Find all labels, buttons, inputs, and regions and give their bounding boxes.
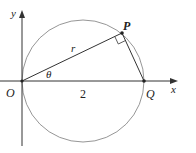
y-axis-arrow-icon [19,10,25,18]
y-axis-label: y [10,7,16,19]
point-p-label: P [123,19,131,33]
length-oq-label: 2 [80,87,86,101]
diagram-canvas: y x P O Q r θ 2 [0,0,196,153]
point-o [20,79,23,82]
radius-label: r [71,42,76,54]
x-axis-label: x [170,83,176,95]
angle-theta-label: θ [46,68,52,80]
point-q-label: Q [146,87,155,101]
point-o-label: O [6,86,15,100]
point-q [142,79,146,83]
segment-op [22,33,122,81]
